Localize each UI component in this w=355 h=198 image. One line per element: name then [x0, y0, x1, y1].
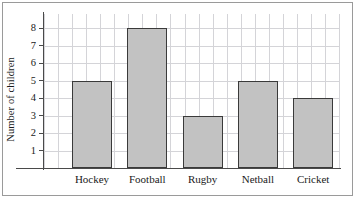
plot-area: [44, 14, 340, 168]
gridline-vertical: [227, 14, 228, 168]
bar-netball: [238, 81, 278, 169]
gridline-vertical: [170, 14, 171, 168]
y-axis-tick-label: 4: [31, 93, 36, 104]
bar-hockey: [72, 81, 112, 169]
gridline-horizontal: [44, 46, 340, 47]
x-axis-label-hockey: Hockey: [75, 172, 109, 186]
bar-chart-figure: Number of children 12345678 HockeyFootba…: [0, 0, 355, 198]
x-axis-label-cricket: Cricket: [297, 172, 329, 186]
bar-football: [127, 28, 167, 168]
gridline-vertical: [44, 14, 45, 168]
x-axis-label-rugby: Rugby: [188, 172, 217, 186]
bar-rugby: [183, 116, 223, 169]
y-axis-tick-label: 6: [31, 58, 36, 69]
gridline-horizontal: [44, 28, 340, 29]
y-axis-tick-label: 1: [31, 145, 36, 156]
x-axis-label-netball: Netball: [242, 172, 274, 186]
gridline-vertical: [58, 14, 59, 168]
x-axis-line: [16, 168, 341, 169]
x-axis-labels: HockeyFootballRugbyNetballCricket: [0, 172, 355, 194]
y-axis-tick-label: 5: [31, 75, 36, 86]
gridline-vertical: [339, 14, 340, 168]
y-axis-tick-label: 2: [31, 128, 36, 139]
y-axis-tick-label: 3: [31, 110, 36, 121]
y-axis-tick-label: 7: [31, 40, 36, 51]
gridline-vertical: [283, 14, 284, 168]
gridline-vertical: [114, 14, 115, 168]
y-axis-tick-label: 8: [31, 23, 36, 34]
gridline-horizontal: [44, 63, 340, 64]
bar-cricket: [293, 98, 333, 168]
x-axis-label-football: Football: [129, 172, 166, 186]
